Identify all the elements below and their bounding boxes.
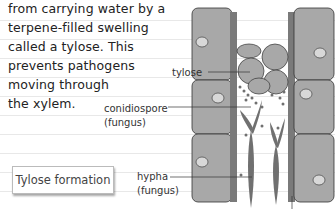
conidiospore-label: conidiospore xyxy=(104,102,168,115)
hypha-label: hypha xyxy=(137,170,168,183)
right-cell-column xyxy=(294,8,334,202)
left-cell-column xyxy=(192,8,232,202)
figure-caption: Tylose formation xyxy=(12,166,114,194)
tylose-swellings xyxy=(237,44,288,94)
hypha-strands xyxy=(240,100,285,208)
tylose-label: tylose xyxy=(172,66,202,79)
conidiospore-kind-label: (fungus) xyxy=(104,116,146,129)
hypha-kind-label: (fungus) xyxy=(137,184,179,197)
